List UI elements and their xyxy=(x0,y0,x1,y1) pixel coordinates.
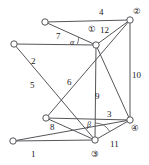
graph-node-f[interactable] xyxy=(10,138,16,144)
edge-a-d xyxy=(45,20,130,22)
node-id-label-circled-3: ③ xyxy=(91,150,99,159)
edge-weight-label-6: 6 xyxy=(67,78,72,87)
edge-weight-label-9: 9 xyxy=(95,92,100,101)
edge-weight-label-4: 4 xyxy=(99,8,104,17)
angle-arc-alpha xyxy=(77,37,79,45)
diagram-canvas xyxy=(0,0,149,165)
edge-c-h xyxy=(96,45,130,120)
graph-node-a[interactable] xyxy=(42,19,48,25)
edge-weight-label-2: 2 xyxy=(31,57,36,66)
node-id-label-circled-4: ④ xyxy=(131,124,139,133)
edge-b-c xyxy=(14,44,96,45)
graph-node-g[interactable] xyxy=(92,137,98,143)
edge-weight-label-8: 8 xyxy=(50,123,55,132)
edge-weight-label-3: 3 xyxy=(107,110,112,119)
graph-diagram: 471225610938111 αβ ①②③④ xyxy=(0,0,149,165)
edge-weight-label-10: 10 xyxy=(132,71,141,80)
angle-label-alpha: α xyxy=(70,39,74,47)
edge-weight-label-12: 12 xyxy=(100,26,109,35)
angle-label-beta: β xyxy=(87,121,91,129)
edge-weight-label-1: 1 xyxy=(31,150,36,159)
edge-weight-label-11: 11 xyxy=(110,140,119,149)
edge-f-g xyxy=(13,140,95,141)
edge-weight-label-5: 5 xyxy=(30,81,35,90)
graph-node-d[interactable] xyxy=(127,17,133,23)
node-id-label-circled-1: ① xyxy=(88,25,96,34)
angle-marker-layer xyxy=(77,37,110,131)
graph-node-e[interactable] xyxy=(43,115,49,121)
graph-node-c[interactable] xyxy=(93,42,99,48)
graph-node-b[interactable] xyxy=(11,41,17,47)
edge-weight-label-7: 7 xyxy=(56,32,61,41)
node-id-label-circled-2: ② xyxy=(133,7,141,16)
